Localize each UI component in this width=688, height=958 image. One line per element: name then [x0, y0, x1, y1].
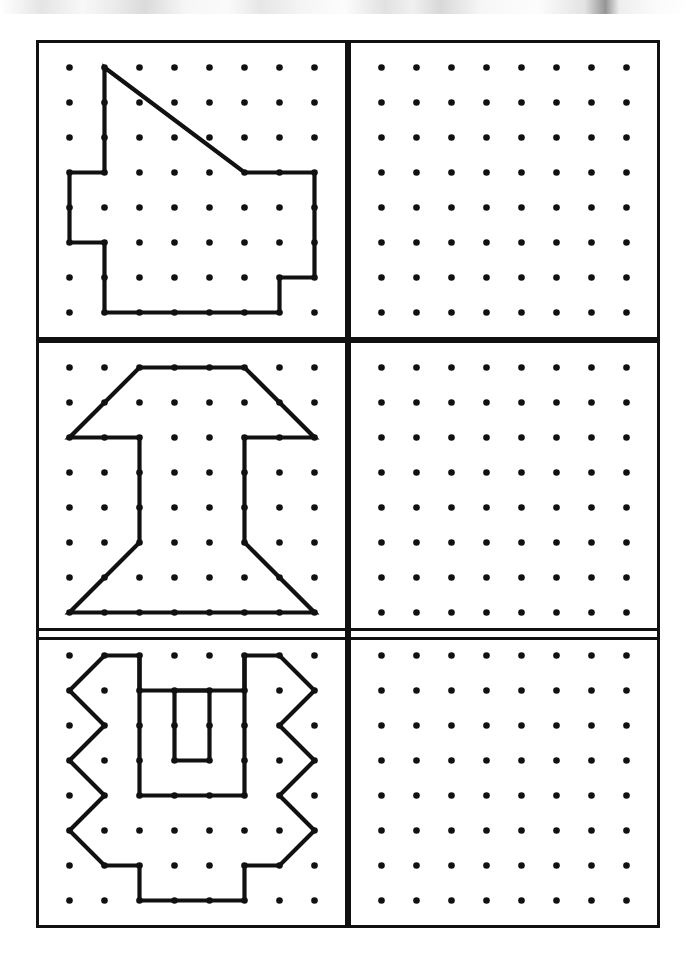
peg-dot: [553, 609, 560, 616]
peg-dot: [553, 134, 560, 141]
peg-dot: [413, 134, 420, 141]
peg-dot: [623, 239, 630, 246]
peg-dot: [553, 64, 560, 71]
peg-dot: [518, 897, 525, 904]
peg-dot: [483, 204, 490, 211]
peg-dot: [378, 722, 385, 729]
peg-dot: [553, 687, 560, 694]
peg-dot: [553, 757, 560, 764]
peg-dot: [588, 399, 595, 406]
geoboard-blank-3-border: [350, 630, 659, 927]
peg-dot: [206, 274, 213, 281]
peg-dot: [206, 827, 213, 834]
peg-dot: [623, 169, 630, 176]
peg-dot: [378, 64, 385, 71]
peg-dot: [241, 274, 248, 281]
peg-dot: [378, 652, 385, 659]
figure-hole: [175, 691, 210, 761]
peg-dot: [206, 64, 213, 71]
geoboard-blank-3[interactable]: [350, 630, 659, 927]
geoboard-figure-1[interactable]: [38, 42, 347, 339]
peg-dot: [206, 574, 213, 581]
peg-dot: [413, 862, 420, 869]
peg-dot: [623, 134, 630, 141]
peg-dot: [448, 722, 455, 729]
peg-dot: [518, 274, 525, 281]
peg-dot: [311, 364, 318, 371]
peg-dot: [448, 469, 455, 476]
peg-dot: [483, 364, 490, 371]
peg-dot: [413, 574, 420, 581]
peg-dot: [518, 609, 525, 616]
peg-dot: [171, 134, 178, 141]
peg-dot: [553, 792, 560, 799]
peg-dot: [276, 827, 283, 834]
peg-dot: [66, 862, 73, 869]
peg-dot: [413, 469, 420, 476]
peg-dot: [518, 827, 525, 834]
geoboard-blank-2-border: [350, 342, 659, 639]
peg-dot: [483, 722, 490, 729]
peg-dot: [553, 399, 560, 406]
peg-dot: [206, 134, 213, 141]
peg-dot: [588, 687, 595, 694]
peg-dot: [588, 862, 595, 869]
geoboard-blank-1[interactable]: [350, 42, 659, 339]
peg-dot: [483, 792, 490, 799]
peg-dot: [483, 99, 490, 106]
peg-dot: [483, 652, 490, 659]
peg-dot: [623, 99, 630, 106]
peg-dot: [66, 539, 73, 546]
peg-dot: [101, 827, 108, 834]
peg-dot: [413, 64, 420, 71]
peg-dot: [588, 99, 595, 106]
peg-dot: [588, 792, 595, 799]
peg-dot: [378, 897, 385, 904]
peg-dot: [378, 399, 385, 406]
peg-dot: [378, 827, 385, 834]
peg-dot: [483, 574, 490, 581]
peg-dot: [276, 504, 283, 511]
peg-dot: [276, 204, 283, 211]
peg-dot: [413, 239, 420, 246]
peg-dot: [311, 469, 318, 476]
peg-dot: [206, 862, 213, 869]
geoboard-figure-2[interactable]: [38, 342, 347, 639]
peg-dot: [588, 274, 595, 281]
peg-dot: [206, 652, 213, 659]
geoboard-blank-1-border: [350, 42, 659, 339]
peg-dot: [483, 399, 490, 406]
peg-dot: [206, 239, 213, 246]
peg-dot: [101, 757, 108, 764]
peg-dot: [66, 897, 73, 904]
peg-dot: [448, 274, 455, 281]
peg-dot: [378, 862, 385, 869]
peg-dot: [448, 652, 455, 659]
peg-dot: [518, 169, 525, 176]
peg-dot: [623, 827, 630, 834]
peg-dot: [448, 399, 455, 406]
peg-dot: [66, 274, 73, 281]
geoboard-blank-2[interactable]: [350, 342, 659, 639]
peg-dot: [378, 574, 385, 581]
peg-dot: [588, 757, 595, 764]
peg-dot: [553, 169, 560, 176]
peg-dot: [378, 469, 385, 476]
peg-dot: [623, 652, 630, 659]
peg-dot: [413, 169, 420, 176]
peg-dot: [136, 827, 143, 834]
peg-dot: [448, 574, 455, 581]
peg-dot: [276, 99, 283, 106]
geoboard-figure-3[interactable]: [38, 630, 347, 927]
peg-dot: [483, 862, 490, 869]
peg-dot: [413, 364, 420, 371]
peg-dot: [588, 539, 595, 546]
peg-dot: [518, 722, 525, 729]
peg-dot: [623, 609, 630, 616]
peg-dot: [101, 897, 108, 904]
peg-dot: [378, 757, 385, 764]
peg-dot: [588, 609, 595, 616]
peg-dot: [623, 757, 630, 764]
geoboard-sheet: [0, 14, 688, 958]
peg-dot: [553, 434, 560, 441]
